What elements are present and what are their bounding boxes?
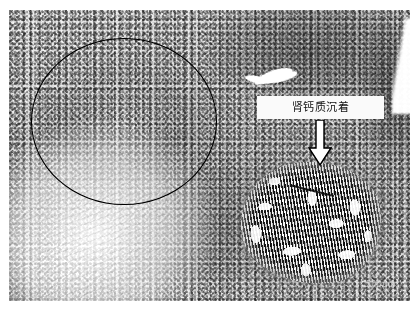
tissue-margin-gap-right [392,18,410,114]
annotation-label-box: 肾钙质沉着 [257,96,384,119]
photomicrograph: 肾钙质沉着 500µm [9,10,410,301]
calcified-deposit-region [237,157,385,288]
region-of-interest-circle [31,38,217,205]
scale-bar-caption: 500µm [366,280,396,289]
annotation-label-text: 肾钙质沉着 [292,102,350,113]
histology-figure: 肾钙质沉着 500µm [0,0,417,313]
down-arrow-icon [308,120,332,166]
